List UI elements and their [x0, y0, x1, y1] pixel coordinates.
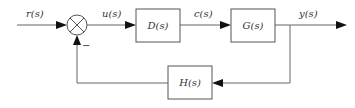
error-arrowhead-icon: [125, 21, 136, 29]
controller-block: D(s): [136, 9, 180, 42]
signal-label-u: u(s): [102, 8, 121, 19]
signal-label-r: r(s): [26, 8, 44, 19]
plant-block-label: G(s): [243, 20, 264, 31]
input-arrowhead-icon: [56, 21, 67, 29]
control-arrowhead-icon: [220, 21, 231, 29]
feedback-block-label: H(s): [178, 77, 201, 88]
feedback-arrowhead-icon: [212, 79, 223, 87]
plant-block: G(s): [231, 9, 275, 42]
summing-junction: [67, 15, 87, 35]
signal-label-y: y(s): [298, 8, 318, 19]
block-diagram: r(s) u(s) D(s) c(s) G(s) y(s) H(s) −: [0, 0, 355, 108]
signal-label-c: c(s): [194, 8, 213, 19]
feedback-sign: −: [82, 40, 90, 51]
output-arrowhead-icon: [336, 21, 347, 29]
controller-block-label: D(s): [147, 20, 169, 31]
feedback-return-wire: [77, 40, 168, 83]
feedback-block: H(s): [168, 66, 212, 99]
feedback-return-arrowhead-icon: [73, 35, 81, 45]
